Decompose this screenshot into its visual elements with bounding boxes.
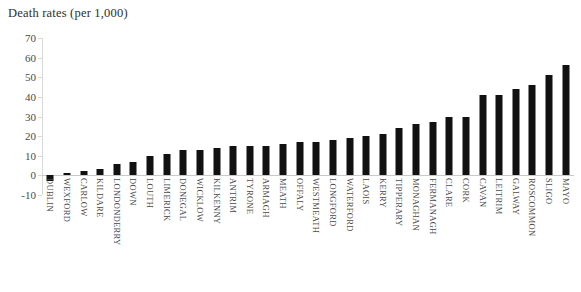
x-axis-label-text: LAOIS <box>362 178 371 205</box>
bar-kerry <box>375 38 392 195</box>
bar-rect <box>512 89 519 175</box>
bar-series <box>42 38 574 195</box>
bar-down <box>125 38 142 195</box>
x-axis-label-offaly: OFFALY <box>291 178 308 288</box>
y-axis-tick-20: 20 <box>25 131 36 142</box>
x-axis-label-text: MAYO <box>561 178 570 204</box>
y-axis-tick-mark <box>38 156 42 157</box>
x-axis-label-text: CLARE <box>445 178 454 207</box>
bar-laois <box>358 38 375 195</box>
y-axis-tick-mark <box>38 117 42 118</box>
x-axis-label-text: LONDONDERRY <box>113 178 122 246</box>
bar-rect <box>113 164 120 176</box>
bar-rect <box>263 146 270 175</box>
bar-offaly <box>291 38 308 195</box>
x-axis-label-text: LEITRIM <box>495 178 504 215</box>
x-axis-label-leitrim: LEITRIM <box>491 178 508 288</box>
bar-rect <box>80 171 87 175</box>
x-axis-label-text: OFFALY <box>295 178 304 211</box>
x-axis-label-waterford: WATERFORD <box>341 178 358 288</box>
y-axis-tick-mark <box>38 136 42 137</box>
bar-rect <box>63 173 70 175</box>
x-axis-label-laois: LAOIS <box>358 178 375 288</box>
bar-armagh <box>258 38 275 195</box>
x-axis-label-text: TIPPERARY <box>395 178 404 227</box>
x-axis-label-longford: LONGFORD <box>325 178 342 288</box>
x-axis-label-text: SLIGO <box>545 178 554 205</box>
x-axis-label-armagh: ARMAGH <box>258 178 275 288</box>
x-axis-label-louth: LOUTH <box>142 178 159 288</box>
x-axis-label-text: WATERFORD <box>345 178 354 232</box>
bar-rect <box>313 142 320 175</box>
bar-cork <box>458 38 475 195</box>
x-axis-label-fermanagh: FERMANAGH <box>424 178 441 288</box>
x-axis-label-text: ARMAGH <box>262 178 271 218</box>
x-axis-label-carlow: CARLOW <box>75 178 92 288</box>
bar-westmeath <box>308 38 325 195</box>
bar-rect <box>529 85 536 175</box>
bar-sligo <box>541 38 558 195</box>
bar-rect <box>246 146 253 175</box>
bar-leitrim <box>491 38 508 195</box>
x-axis-label-text: DUBLIN <box>46 178 55 212</box>
x-axis-label-text: KILDARE <box>96 178 105 217</box>
bar-dublin <box>42 38 59 195</box>
bar-carlow <box>75 38 92 195</box>
y-axis-tick-mark <box>38 195 42 196</box>
bar-rect <box>496 95 503 175</box>
y-axis-tick-0: 0 <box>31 170 37 181</box>
y-axis-tick-10: 10 <box>25 150 36 161</box>
x-axis-tick-labels: DUBLINWEXFORDCARLOWKILDARELONDONDERRYDOW… <box>42 178 574 288</box>
y-axis-tick-30: 30 <box>25 111 36 122</box>
bar-rect <box>479 95 486 175</box>
bar-rect <box>130 162 137 176</box>
y-axis-tick-mark <box>38 175 42 176</box>
bar-rect <box>196 150 203 176</box>
x-axis-label-text: WEXFORD <box>63 178 72 222</box>
x-axis-label-meath: MEATH <box>275 178 292 288</box>
bar-monaghan <box>408 38 425 195</box>
bar-wicklow <box>192 38 209 195</box>
bar-londonderry <box>109 38 126 195</box>
bar-rect <box>462 117 469 176</box>
y-axis-tick-neg10: -10 <box>21 190 36 201</box>
bar-rect <box>296 142 303 175</box>
y-axis-tick-70: 70 <box>25 33 36 44</box>
bar-rect <box>363 136 370 175</box>
bar-clare <box>441 38 458 195</box>
x-axis-label-wexford: WEXFORD <box>59 178 76 288</box>
x-axis-label-kerry: KERRY <box>375 178 392 288</box>
bar-tyrone <box>242 38 259 195</box>
y-axis-tick-40: 40 <box>25 91 36 102</box>
x-axis-label-text: FERMANAGH <box>428 178 437 235</box>
bar-meath <box>275 38 292 195</box>
x-axis-label-text: LONGFORD <box>329 178 338 227</box>
x-axis-label-text: ROSCOMMON <box>528 178 537 236</box>
x-axis-label-text: KERRY <box>379 178 388 208</box>
bar-rect <box>446 117 453 176</box>
x-axis-label-wicklow: WICKLOW <box>192 178 209 288</box>
bar-louth <box>142 38 159 195</box>
x-axis-label-text: CORK <box>462 178 471 203</box>
x-axis-label-tipperary: TIPPERARY <box>391 178 408 288</box>
x-axis-label-text: WESTMEATH <box>312 178 321 233</box>
x-axis-label-antrim: ANTRIM <box>225 178 242 288</box>
y-axis-tick-mark <box>38 77 42 78</box>
y-axis-tick-50: 50 <box>25 72 36 83</box>
x-axis-label-sligo: SLIGO <box>541 178 558 288</box>
y-axis-tick-mark <box>38 58 42 59</box>
bar-rect <box>562 65 569 175</box>
bar-rect <box>280 144 287 175</box>
x-axis-label-clare: CLARE <box>441 178 458 288</box>
death-rates-bar-chart: Death rates (per 1,000) 706050403020100-… <box>0 0 581 292</box>
bar-rect <box>213 148 220 175</box>
x-axis-label-monaghan: MONAGHAN <box>408 178 425 288</box>
x-axis-label-donegal: DONEGAL <box>175 178 192 288</box>
x-axis-label-text: ANTRIM <box>229 178 238 213</box>
bar-rect <box>97 169 104 175</box>
x-axis-label-text: CAVAN <box>478 178 487 208</box>
bar-longford <box>325 38 342 195</box>
x-axis-label-text: DOWN <box>129 178 138 206</box>
x-axis-label-westmeath: WESTMEATH <box>308 178 325 288</box>
y-axis-tick-mark <box>38 38 42 39</box>
